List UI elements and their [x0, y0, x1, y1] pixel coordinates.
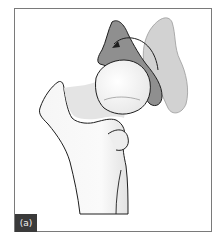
panel-label: (a) — [15, 214, 37, 232]
hip-joint-illustration — [0, 0, 216, 239]
femoral-head-shape — [95, 60, 150, 114]
